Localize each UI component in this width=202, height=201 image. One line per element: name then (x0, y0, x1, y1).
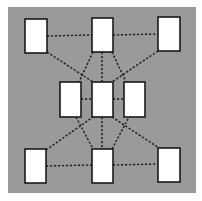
node-top-left (25, 19, 47, 53)
node-top-right (158, 17, 180, 51)
node-bottom-right (158, 148, 180, 182)
node-middle-left (60, 82, 81, 117)
node-middle-center (92, 82, 113, 117)
node-top-center (92, 18, 113, 52)
node-bottom-center (92, 149, 113, 183)
network-diagram (0, 0, 202, 201)
node-middle-right (124, 82, 145, 117)
node-bottom-left (25, 149, 46, 183)
